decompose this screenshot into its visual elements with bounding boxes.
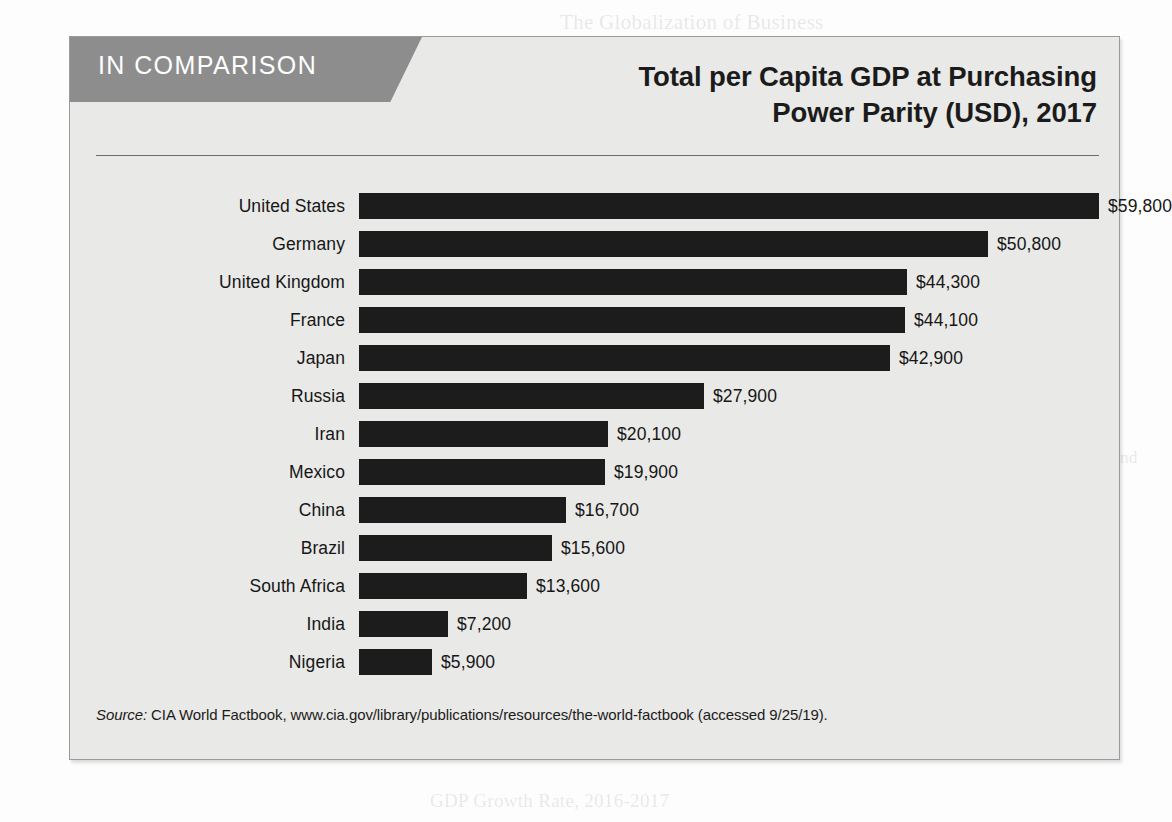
bar-row: China$16,700 <box>70 491 1119 529</box>
bar-row: Germany$50,800 <box>70 225 1119 263</box>
bar-track: $42,900 <box>359 345 1109 371</box>
chart-title-line-1: Total per Capita GDP at Purchasing <box>537 59 1097 95</box>
bar-category-label: Nigeria <box>70 643 352 681</box>
bar <box>359 383 704 409</box>
bar-track: $44,300 <box>359 269 1109 295</box>
bar-track: $19,900 <box>359 459 1109 485</box>
bleed-heading: The Globalization of Business <box>560 10 824 35</box>
bar-track: $13,600 <box>359 573 1109 599</box>
bar-track: $59,800 <box>359 193 1109 219</box>
bar-category-label: Russia <box>70 377 352 415</box>
bar-track: $15,600 <box>359 535 1109 561</box>
bar-category-label: India <box>70 605 352 643</box>
bar-value-label: $16,700 <box>566 497 639 523</box>
bar-category-label: Mexico <box>70 453 352 491</box>
bar-row: United Kingdom$44,300 <box>70 263 1119 301</box>
bar-row: United States$59,800 <box>70 187 1119 225</box>
bar-value-label: $20,100 <box>608 421 681 447</box>
bar-track: $7,200 <box>359 611 1109 637</box>
bar <box>359 611 448 637</box>
bar <box>359 535 552 561</box>
chart-title: Total per Capita GDP at Purchasing Power… <box>537 59 1097 132</box>
bar-value-label: $42,900 <box>890 345 963 371</box>
bar-row: India$7,200 <box>70 605 1119 643</box>
bar-category-label: United Kingdom <box>70 263 352 301</box>
bleed-footer: GDP Growth Rate, 2016-2017 <box>430 790 669 812</box>
bar-row: Iran$20,100 <box>70 415 1119 453</box>
banner-label: IN COMPARISON <box>98 51 317 80</box>
bar-category-label: China <box>70 491 352 529</box>
bar-value-label: $7,200 <box>448 611 511 637</box>
bar-row: Nigeria$5,900 <box>70 643 1119 681</box>
bar-value-label: $27,900 <box>704 383 777 409</box>
bar <box>359 497 566 523</box>
bar-track: $16,700 <box>359 497 1109 523</box>
bar <box>359 307 905 333</box>
bar-category-label: South Africa <box>70 567 352 605</box>
bar-value-label: $15,600 <box>552 535 625 561</box>
bar-category-label: Brazil <box>70 529 352 567</box>
bar-track: $50,800 <box>359 231 1109 257</box>
bar-value-label: $13,600 <box>527 573 600 599</box>
bar <box>359 269 907 295</box>
bar-row: Japan$42,900 <box>70 339 1119 377</box>
bar-track: $20,100 <box>359 421 1109 447</box>
title-divider-rule <box>96 155 1099 156</box>
source-note: Source: CIA World Factbook, www.cia.gov/… <box>96 706 828 723</box>
bar-category-label: United States <box>70 187 352 225</box>
bar-row: France$44,100 <box>70 301 1119 339</box>
bar-track: $5,900 <box>359 649 1109 675</box>
bar <box>359 193 1099 219</box>
bar <box>359 459 605 485</box>
bar-value-label: $19,900 <box>605 459 678 485</box>
bar-category-label: Germany <box>70 225 352 263</box>
source-text: CIA World Factbook, www.cia.gov/library/… <box>151 706 828 723</box>
bar <box>359 345 890 371</box>
bar-value-label: $5,900 <box>432 649 495 675</box>
bar-value-label: $44,300 <box>907 269 980 295</box>
bar <box>359 231 988 257</box>
bar-track: $44,100 <box>359 307 1109 333</box>
in-comparison-figure-panel: IN COMPARISON Total per Capita GDP at Pu… <box>69 36 1120 760</box>
bar-row: Russia$27,900 <box>70 377 1119 415</box>
source-label: Source: <box>96 706 147 723</box>
bar-value-label: $44,100 <box>905 307 978 333</box>
bar-row: South Africa$13,600 <box>70 567 1119 605</box>
bar-chart-plot-area: United States$59,800Germany$50,800United… <box>70 187 1119 681</box>
bar-row: Mexico$19,900 <box>70 453 1119 491</box>
bar-value-label: $50,800 <box>988 231 1061 257</box>
bar <box>359 649 432 675</box>
chart-title-line-2: Power Parity (USD), 2017 <box>537 95 1097 131</box>
bar-category-label: Japan <box>70 339 352 377</box>
bar-track: $27,900 <box>359 383 1109 409</box>
bar-category-label: Iran <box>70 415 352 453</box>
bar-value-label: $59,800 <box>1099 193 1172 219</box>
bar <box>359 421 608 447</box>
bar-row: Brazil$15,600 <box>70 529 1119 567</box>
bar-category-label: France <box>70 301 352 339</box>
bar <box>359 573 527 599</box>
